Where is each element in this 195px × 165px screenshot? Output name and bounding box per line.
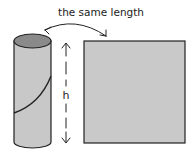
cylinder-unrolling-diagram: the same length h: [0, 0, 195, 165]
curved-double-arrow-icon: [45, 24, 106, 36]
unrolled-rectangle: [84, 41, 185, 143]
same-length-label: the same length: [58, 6, 144, 18]
cylinder-shape: [14, 34, 51, 148]
height-label: h: [63, 89, 70, 102]
